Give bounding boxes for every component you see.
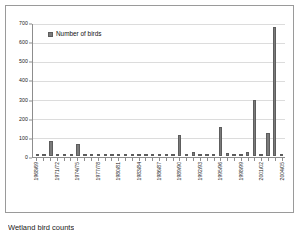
bar-slot xyxy=(278,24,285,156)
y-tick-label: 400 xyxy=(19,79,28,84)
bar-slot xyxy=(156,24,163,156)
y-tick-label: 600 xyxy=(19,41,28,46)
bar-slot xyxy=(122,24,129,156)
bar-slot xyxy=(224,24,231,156)
bar xyxy=(110,154,113,156)
bar-slot xyxy=(88,24,95,156)
x-tick-slot xyxy=(224,158,231,206)
bar-slot xyxy=(271,24,278,156)
x-tick-mark xyxy=(118,158,119,161)
x-tick-slot xyxy=(122,158,129,206)
x-tick-slot xyxy=(271,158,278,206)
x-tick-label: 1968/69 xyxy=(34,162,39,180)
bar-slot xyxy=(217,24,224,156)
x-tick-mark xyxy=(64,158,65,161)
x-tick-slot xyxy=(203,158,210,206)
x-tick-label: 1983/84 xyxy=(136,162,141,180)
y-tick-label: 700 xyxy=(19,21,28,26)
x-tick-slot xyxy=(142,158,149,206)
x-tick-mark xyxy=(173,158,174,161)
bar xyxy=(185,154,188,156)
x-tick-mark xyxy=(50,158,51,161)
bar xyxy=(198,154,201,156)
x-tick-label: 1992/93 xyxy=(197,162,202,180)
x-tick-mark xyxy=(166,158,167,161)
x-tick-mark xyxy=(193,158,194,161)
bar xyxy=(36,154,39,156)
x-tick-slot xyxy=(190,158,197,206)
bar-slot xyxy=(61,24,68,156)
x-tick-label: 1971/72 xyxy=(54,162,59,180)
x-tick-mark xyxy=(220,158,221,161)
x-tick-mark xyxy=(268,158,269,161)
x-tick-slot: 1968/69 xyxy=(33,158,40,206)
bar xyxy=(273,27,276,156)
bar xyxy=(253,100,256,156)
figure-caption: Wetland bird counts xyxy=(8,224,74,233)
bar xyxy=(239,154,242,156)
bar-series xyxy=(34,24,285,156)
bar-slot xyxy=(251,24,258,156)
x-tick-mark xyxy=(139,158,140,161)
bar xyxy=(70,154,73,156)
x-tick-mark xyxy=(125,158,126,161)
x-tick-mark xyxy=(248,158,249,161)
bar xyxy=(205,154,208,156)
bar-slot xyxy=(115,24,122,156)
x-tick-label: 1995/96 xyxy=(218,162,223,180)
x-tick-slot xyxy=(244,158,251,206)
chart-legend: Number of birds xyxy=(48,31,101,37)
y-tick-label: 300 xyxy=(19,98,28,103)
x-tick-mark xyxy=(77,158,78,161)
x-tick-mark xyxy=(227,158,228,161)
bar-slot xyxy=(210,24,217,156)
bar-slot xyxy=(34,24,41,156)
x-tick-slot: 1992/93 xyxy=(197,158,204,206)
bar xyxy=(124,154,127,156)
x-tick-label: 2001/02 xyxy=(259,162,264,180)
x-tick-mark xyxy=(70,158,71,161)
x-tick-mark xyxy=(98,158,99,161)
bar xyxy=(266,133,269,156)
x-tick-slot: 1983/84 xyxy=(135,158,142,206)
bar-slot xyxy=(129,24,136,156)
x-tick-slot: 1995/96 xyxy=(217,158,224,206)
x-tick-slot xyxy=(47,158,54,206)
x-tick-slot xyxy=(265,158,272,206)
x-tick-mark xyxy=(105,158,106,161)
bar-slot xyxy=(244,24,251,156)
bar-slot xyxy=(204,24,211,156)
y-tick-label: 0 xyxy=(25,155,28,160)
bar-slot xyxy=(258,24,265,156)
x-tick-mark xyxy=(57,158,58,161)
bar-slot xyxy=(149,24,156,156)
bar-slot xyxy=(176,24,183,156)
x-tick-slot xyxy=(231,158,238,206)
bar-slot xyxy=(102,24,109,156)
bar xyxy=(192,152,195,156)
bar xyxy=(90,154,93,156)
bar xyxy=(280,154,283,156)
x-tick-mark xyxy=(234,158,235,161)
bar-slot xyxy=(237,24,244,156)
bar-slot xyxy=(197,24,204,156)
x-tick-mark xyxy=(254,158,255,161)
x-tick-mark xyxy=(159,158,160,161)
x-tick-label: 1980/81 xyxy=(116,162,121,180)
x-tick-slot: 1974/75 xyxy=(74,158,81,206)
bar-slot xyxy=(54,24,61,156)
x-tick-slot: 2004/05 xyxy=(278,158,285,206)
y-tick-label: 500 xyxy=(19,60,28,65)
x-tick-mark xyxy=(207,158,208,161)
bar xyxy=(83,154,86,156)
bar-slot xyxy=(109,24,116,156)
bar xyxy=(165,154,168,156)
bar xyxy=(178,135,181,156)
bar-slot xyxy=(170,24,177,156)
bar-slot xyxy=(231,24,238,156)
legend-swatch-icon xyxy=(48,32,53,37)
x-tick-mark xyxy=(84,158,85,161)
x-tick-label: 2004/05 xyxy=(279,162,284,180)
bar xyxy=(76,144,79,156)
x-tick-label: 1974/75 xyxy=(75,162,80,180)
